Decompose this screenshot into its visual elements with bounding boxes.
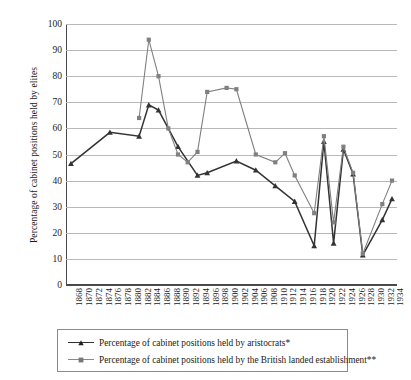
legend-label-aristocrats: Percentage of cabinet positions held by … bbox=[94, 338, 290, 348]
legend-item-landed-establishment: Percentage of cabinet positions held by … bbox=[68, 351, 347, 368]
data-point-square bbox=[380, 202, 384, 206]
x-axis-tick-label: 1926 bbox=[357, 288, 367, 306]
x-axis-tick-label: 1894 bbox=[201, 288, 211, 306]
y-axis-tick-label: 10 bbox=[53, 254, 63, 264]
x-axis-tick-label: 1902 bbox=[240, 288, 250, 306]
data-point-square bbox=[312, 211, 316, 215]
series-layer bbox=[66, 24, 397, 285]
series-landed-establishment bbox=[137, 38, 394, 256]
x-axis-tick-label: 1876 bbox=[113, 288, 123, 306]
data-point-triangle bbox=[234, 158, 240, 163]
y-axis-tick-label: 40 bbox=[53, 176, 63, 186]
x-axis-tick-label: 1934 bbox=[395, 288, 405, 306]
x-axis-tick-label: 1892 bbox=[191, 288, 201, 306]
x-axis-tick-label: 1882 bbox=[143, 288, 153, 306]
x-axis-tick-label: 1924 bbox=[347, 288, 357, 306]
plot-area: 0102030405060708090100 bbox=[66, 24, 397, 285]
x-axis-tick-label: 1890 bbox=[181, 288, 191, 306]
x-axis-tick-label: 1912 bbox=[288, 288, 298, 306]
data-point-triangle bbox=[156, 107, 162, 112]
legend-marker-triangle-icon bbox=[68, 338, 94, 348]
legend-marker-square-icon bbox=[68, 355, 94, 365]
data-point-triangle bbox=[379, 217, 385, 222]
x-axis-tick-label: 1922 bbox=[337, 288, 347, 306]
data-point-triangle bbox=[311, 243, 317, 248]
data-point-square bbox=[390, 179, 394, 183]
x-axis-tick-label: 1930 bbox=[376, 288, 386, 306]
x-axis-tick-label: 1868 bbox=[74, 288, 84, 306]
x-axis-tick-label: 1872 bbox=[94, 288, 104, 306]
data-point-triangle bbox=[389, 196, 395, 201]
x-axis-tick-label: 1908 bbox=[269, 288, 279, 306]
data-point-square bbox=[322, 134, 326, 138]
data-point-square bbox=[147, 38, 151, 42]
data-point-triangle bbox=[146, 102, 152, 107]
x-axis-tick-labels: 1868187018721874187618781880188218841886… bbox=[66, 288, 397, 334]
data-point-square bbox=[137, 116, 141, 120]
data-point-square bbox=[195, 150, 199, 154]
legend-item-aristocrats: Percentage of cabinet positions held by … bbox=[68, 334, 347, 351]
chart-figure: Percentage of cabinet positions held by … bbox=[0, 0, 411, 380]
x-axis-tick-label: 1916 bbox=[308, 288, 318, 306]
series-line bbox=[71, 105, 392, 255]
y-axis-title: Percentage of cabinet positions held by … bbox=[29, 25, 39, 285]
series-aristocrats bbox=[68, 102, 395, 258]
x-axis-tick-label: 1920 bbox=[327, 288, 337, 306]
data-point-square bbox=[166, 126, 170, 130]
x-axis-tick-label: 1884 bbox=[152, 288, 162, 306]
y-axis-tick-label: 80 bbox=[53, 71, 63, 81]
data-point-square bbox=[361, 252, 365, 256]
legend-label-landed-establishment: Percentage of cabinet positions held by … bbox=[94, 355, 376, 365]
x-axis-tick-label: 1870 bbox=[84, 288, 94, 306]
data-point-square bbox=[341, 145, 345, 149]
y-axis-tick-label: 0 bbox=[57, 280, 62, 290]
data-point-square bbox=[273, 160, 277, 164]
y-axis-tick-label: 20 bbox=[53, 228, 63, 238]
x-axis-tick-label: 1914 bbox=[298, 288, 308, 306]
data-point-square bbox=[156, 74, 160, 78]
y-axis-tick-label: 50 bbox=[53, 150, 63, 160]
gridline bbox=[66, 285, 397, 286]
data-point-square bbox=[351, 171, 355, 175]
data-point-square bbox=[205, 90, 209, 94]
x-axis-tick-label: 1880 bbox=[133, 288, 143, 306]
data-point-square bbox=[176, 152, 180, 156]
x-axis-tick-label: 1898 bbox=[220, 288, 230, 306]
x-axis-tick-label: 1900 bbox=[230, 288, 240, 306]
x-axis-tick-label: 1878 bbox=[123, 288, 133, 306]
data-point-square bbox=[186, 160, 190, 164]
y-axis-tick-label: 100 bbox=[48, 19, 62, 29]
data-point-square bbox=[254, 152, 258, 156]
x-axis-tick-label: 1904 bbox=[250, 288, 260, 306]
data-point-triangle bbox=[331, 240, 337, 245]
data-point-square bbox=[225, 86, 229, 90]
chart-legend: Percentage of cabinet positions held by … bbox=[57, 329, 348, 372]
y-axis-tick-label: 30 bbox=[53, 202, 63, 212]
x-axis-tick-label: 1906 bbox=[259, 288, 269, 306]
x-axis-tick-label: 1928 bbox=[366, 288, 376, 306]
data-point-square bbox=[293, 173, 297, 177]
y-axis-tick-label: 90 bbox=[53, 45, 63, 55]
y-axis-tick-label: 70 bbox=[53, 97, 63, 107]
x-axis-tick-label: 1886 bbox=[162, 288, 172, 306]
data-point-square bbox=[283, 151, 287, 155]
data-point-square bbox=[332, 220, 336, 224]
data-point-square bbox=[234, 87, 238, 91]
y-axis-tick-label: 60 bbox=[53, 123, 63, 133]
